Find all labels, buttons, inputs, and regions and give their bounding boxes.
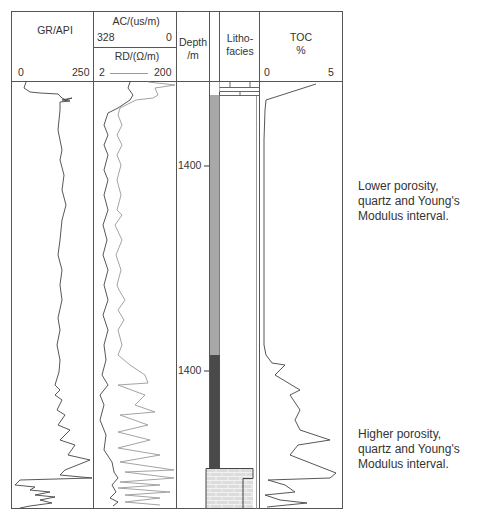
toc-scale-max: 5 — [328, 66, 334, 79]
depth-title-line2: /m — [178, 49, 208, 62]
rd-curve — [115, 82, 175, 505]
gr-scale-min: 0 — [18, 66, 24, 79]
lower-note-line3: Modulus interval. — [358, 457, 460, 472]
depth-title: Depth /m — [178, 36, 208, 62]
litho-title: Litho- facies — [220, 32, 260, 58]
depth-label-lower: 1400 — [178, 364, 201, 376]
lower-note-line1: Higher porosity, — [358, 427, 460, 442]
rd-title: RD/(Ω/m) — [112, 50, 162, 63]
gr-title: GR/API — [30, 24, 80, 37]
dark-shale-strip — [210, 355, 220, 468]
upper-note-line1: Lower porosity, — [358, 179, 460, 194]
ac-scale-max: 0 — [166, 31, 172, 44]
toc-title-line2: % — [280, 44, 322, 57]
toc-title-line1: TOC — [280, 31, 322, 44]
gr-curve — [15, 82, 92, 508]
ac-title: AC/(us/m) — [110, 15, 162, 28]
ac-scale-min: 328 — [97, 31, 115, 44]
ac-curve — [100, 82, 133, 506]
rd-legend-line — [110, 73, 148, 74]
lithology-column — [206, 82, 260, 508]
litho-title-line1: Litho- — [220, 32, 260, 45]
limestone-block — [206, 468, 253, 508]
toc-curve — [264, 84, 336, 507]
upper-note-line3: Modulus interval. — [358, 209, 460, 224]
log-frame — [12, 12, 343, 509]
depth-label-upper: 1400 — [178, 159, 201, 171]
lower-interval-note: Higher porosity, quartz and Young's Modu… — [358, 427, 460, 472]
gr-scale-max: 250 — [72, 66, 90, 79]
litho-title-line2: facies — [220, 45, 260, 58]
toc-title: TOC % — [280, 31, 322, 57]
lower-note-line2: quartz and Young's — [358, 442, 460, 457]
rd-scale-min: 2 — [99, 66, 105, 79]
upper-note-line2: quartz and Young's — [358, 194, 460, 209]
depth-title-line1: Depth — [178, 36, 208, 49]
light-shale-strip — [210, 95, 220, 355]
upper-interval-note: Lower porosity, quartz and Young's Modul… — [358, 179, 460, 224]
rd-scale-max: 200 — [154, 66, 172, 79]
toc-scale-min: 0 — [264, 66, 270, 79]
